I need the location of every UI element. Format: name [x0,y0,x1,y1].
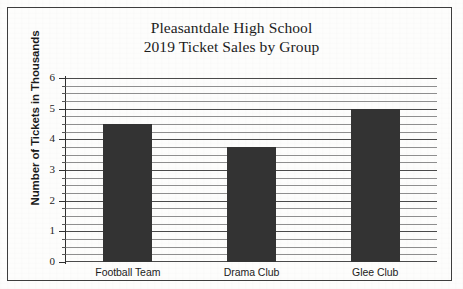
chart-title-line-2: 2019 Ticket Sales by Group [0,37,463,56]
y-tick-major [59,109,66,110]
gridline-minor [66,93,437,94]
bar-football-team [103,124,152,262]
gridline-minor [66,101,437,102]
gridline-minor [66,86,437,87]
y-tick-minor [62,116,66,117]
y-tick-major [59,78,66,79]
y-tick-minor [62,208,66,209]
y-tick-label: 1 [39,224,55,236]
y-tick-label: 6 [39,71,55,83]
bar-glee-club [351,109,400,262]
y-tick-minor [62,216,66,217]
chart-title-line-1: Pleasantdale High School [0,18,463,37]
chart-title: Pleasantdale High School 2019 Ticket Sal… [0,18,463,56]
y-tick-major [59,262,66,263]
y-tick-major [59,231,66,232]
plot-area [66,78,437,262]
y-tick-major [59,201,66,202]
y-tick-minor [62,254,66,255]
y-tick-minor [62,239,66,240]
y-axis-title: Number of Tickets in Thousands [29,13,41,223]
y-tick-minor [62,93,66,94]
y-tick-minor [62,101,66,102]
y-tick-minor [62,185,66,186]
chart-page: Pleasantdale High School 2019 Ticket Sal… [0,0,463,289]
bar-drama-club [227,147,276,262]
y-tick-label: 5 [39,102,55,114]
x-label-drama-club: Drama Club [192,266,312,278]
y-tick-major [59,170,66,171]
y-tick-minor [62,124,66,125]
y-tick-label: 4 [39,132,55,144]
y-tick-minor [62,86,66,87]
gridline-major [66,78,437,79]
x-label-football-team: Football Team [68,266,188,278]
y-tick-minor [62,147,66,148]
y-tick-minor [62,193,66,194]
y-tick-label: 2 [39,194,55,206]
y-tick-label: 3 [39,163,55,175]
y-tick-major [59,139,66,140]
x-label-glee-club: Glee Club [315,266,435,278]
y-tick-label: 0 [39,255,55,267]
y-tick-minor [62,224,66,225]
y-tick-minor [62,132,66,133]
y-tick-minor [62,155,66,156]
y-tick-minor [62,247,66,248]
y-tick-minor [62,178,66,179]
y-tick-minor [62,162,66,163]
